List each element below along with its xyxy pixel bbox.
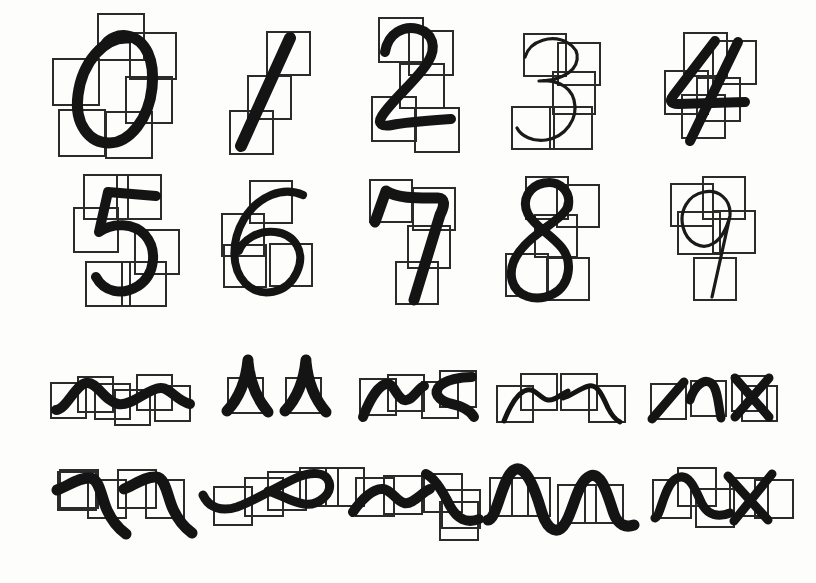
figure-root: Handwritten digits and stroke patterns o… — [0, 0, 816, 583]
handwritten-glyph-grid — [0, 0, 816, 583]
